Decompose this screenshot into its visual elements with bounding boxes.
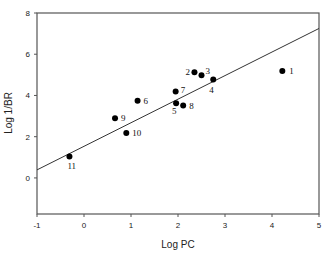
- x-tick-label: -1: [33, 221, 41, 230]
- data-point: [210, 77, 216, 83]
- y-tick-label: 2: [26, 133, 31, 142]
- y-tick-label: 4: [26, 91, 31, 100]
- point-label: 9: [121, 113, 126, 123]
- y-axis-ticks: 02468: [26, 9, 37, 183]
- y-tick-label: 0: [26, 174, 31, 183]
- y-tick-label: 8: [26, 9, 31, 18]
- data-points: 1234567891011: [66, 66, 293, 172]
- scatter-chart: 02468 -1012345 1234567891011 Log PC Log …: [0, 0, 327, 254]
- plot-frame: [37, 13, 319, 214]
- x-tick-label: 4: [270, 221, 275, 230]
- data-point: [191, 69, 197, 75]
- x-tick-label: 5: [317, 221, 322, 230]
- data-point: [123, 130, 129, 136]
- data-point: [173, 89, 179, 95]
- data-point: [135, 98, 141, 104]
- point-label: 10: [132, 128, 142, 138]
- data-point: [66, 153, 72, 159]
- point-label: 8: [189, 101, 194, 111]
- point-label: 1: [289, 66, 294, 76]
- regression-line: [37, 28, 319, 169]
- x-tick-label: 1: [129, 221, 134, 230]
- data-point: [279, 68, 285, 74]
- x-tick-label: 2: [176, 221, 181, 230]
- data-point: [112, 115, 118, 121]
- point-label: 7: [181, 85, 186, 95]
- point-label: 3: [206, 66, 211, 76]
- x-tick-label: 3: [223, 221, 228, 230]
- y-axis-title: Log 1/BR: [3, 92, 14, 134]
- x-tick-label: 0: [82, 221, 87, 230]
- point-label: 5: [172, 106, 177, 116]
- point-label: 4: [209, 85, 214, 95]
- y-tick-label: 6: [26, 50, 31, 59]
- data-point: [180, 103, 186, 109]
- x-axis-ticks: -1012345: [33, 214, 321, 230]
- point-label: 11: [67, 161, 76, 171]
- x-axis-title: Log PC: [161, 239, 194, 250]
- data-point: [199, 72, 205, 78]
- point-label: 6: [144, 96, 149, 106]
- point-label: 2: [185, 67, 190, 77]
